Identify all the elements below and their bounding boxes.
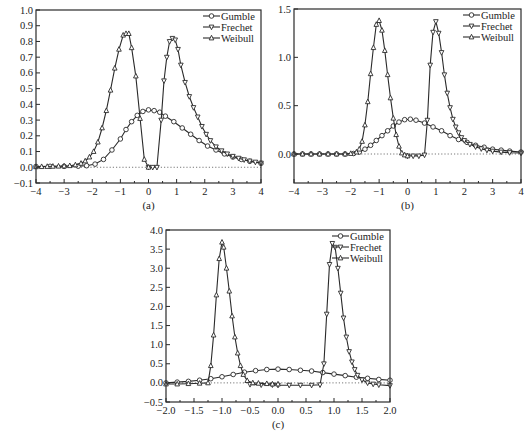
frechet-marker xyxy=(287,383,292,388)
x-tick-label: 3 xyxy=(230,186,235,197)
weibull-marker xyxy=(134,73,139,78)
x-tick-label: −4 xyxy=(288,186,300,197)
frechet-marker xyxy=(333,245,338,250)
gumble-marker xyxy=(343,373,348,378)
y-tick-label: 1.0 xyxy=(278,52,291,63)
gumble-marker xyxy=(385,129,390,134)
weibull-marker xyxy=(235,350,240,355)
frechet-marker xyxy=(155,165,160,170)
frechet-marker xyxy=(448,106,453,111)
gumble-marker xyxy=(84,163,89,168)
gumble-marker xyxy=(265,367,270,372)
gumble-marker xyxy=(309,369,314,374)
legend-label-frechet: Frechet xyxy=(350,242,382,253)
legend: GumbleFrechetWeibull xyxy=(463,10,515,43)
weibull-marker xyxy=(100,125,105,130)
legend-gumble-marker xyxy=(209,14,214,19)
weibull-marker xyxy=(108,88,113,93)
frechet-marker xyxy=(442,73,447,78)
panel-caption: (b) xyxy=(401,199,414,212)
gumble-marker xyxy=(448,133,453,138)
y-tick-label: 1.5 xyxy=(150,320,163,331)
frechet-marker xyxy=(179,63,184,68)
weibull-marker xyxy=(391,116,396,121)
legend-label-weibull: Weibull xyxy=(481,32,514,43)
frechet-marker xyxy=(191,106,196,111)
frechet-marker xyxy=(434,20,439,25)
y-tick-label: −0.5 xyxy=(144,397,163,408)
frechet-marker xyxy=(453,125,458,130)
weibull-marker xyxy=(224,266,229,271)
weibull-marker xyxy=(397,144,402,149)
legend-weibull-marker xyxy=(338,255,343,260)
gumble-marker xyxy=(152,108,157,113)
frechet-marker xyxy=(253,160,258,165)
legend-label-weibull: Weibull xyxy=(221,33,254,44)
weibull-marker xyxy=(73,162,78,167)
x-tick-label: 1 xyxy=(174,186,179,197)
weibull-marker xyxy=(221,245,226,250)
x-tick-label: 1.5 xyxy=(355,405,368,416)
weibull-marker xyxy=(62,163,67,168)
legend-label-gumble: Gumble xyxy=(481,10,515,21)
gumble-marker xyxy=(422,121,427,126)
legend-gumble-marker xyxy=(338,234,343,239)
weibull-marker xyxy=(360,139,365,144)
gumble-marker xyxy=(287,367,292,372)
weibull-marker xyxy=(380,28,385,33)
frechet-marker xyxy=(490,149,495,154)
y-axis: 0.00.51.01.5 xyxy=(278,4,298,160)
frechet-marker xyxy=(347,350,352,355)
gumble-marker xyxy=(129,119,134,124)
frechet-marker xyxy=(431,30,436,35)
gumble-marker xyxy=(110,148,115,153)
frechet-marker xyxy=(411,154,416,159)
gumble-marker xyxy=(377,377,382,382)
gumble-marker xyxy=(414,118,419,123)
frechet-marker xyxy=(159,118,164,123)
gumble-marker xyxy=(332,372,337,377)
frechet-marker xyxy=(318,383,323,388)
weibull-marker xyxy=(265,381,270,386)
y-tick-label: 0.4 xyxy=(20,99,34,110)
weibull-marker xyxy=(276,381,281,386)
frechet-marker xyxy=(422,153,427,158)
frechet-marker xyxy=(479,147,484,152)
weibull-marker xyxy=(39,164,44,169)
frechet-marker xyxy=(428,63,433,68)
weibull-marker xyxy=(220,240,225,245)
weibull-marker xyxy=(96,139,101,144)
frechet-marker xyxy=(507,151,512,156)
weibull-marker xyxy=(217,256,222,261)
frechet-marker xyxy=(360,378,365,383)
legend-weibull-marker xyxy=(469,34,474,39)
y-tick-label: 2.0 xyxy=(150,301,163,312)
frechet-marker xyxy=(327,263,332,268)
frechet-marker xyxy=(309,383,314,388)
weibull-marker xyxy=(230,313,235,318)
gumble-marker xyxy=(188,132,193,137)
x-tick-label: 4 xyxy=(258,186,264,197)
panel-caption: (a) xyxy=(142,199,155,212)
x-tick-label: 4 xyxy=(518,186,524,197)
weibull-marker xyxy=(368,71,373,76)
gumble-marker xyxy=(298,368,303,373)
x-tick-label: −1.5 xyxy=(184,405,203,416)
x-tick-label: 0 xyxy=(405,186,410,197)
gumble-marker xyxy=(141,109,146,114)
x-tick-label: 0.0 xyxy=(271,405,284,416)
gumble-marker xyxy=(93,162,98,167)
y-tick-label: 0.7 xyxy=(20,52,33,63)
chart-panel-c: −2.0−1.5−1.0−0.50.00.51.01.52.0−0.50.00.… xyxy=(144,225,397,432)
y-tick-label: 2.5 xyxy=(150,282,163,293)
weibull-marker xyxy=(211,332,216,337)
legend: GumbleFrechetWeibull xyxy=(203,11,255,44)
gumble-marker xyxy=(197,138,202,143)
weibull-marker xyxy=(214,292,219,297)
gumble-marker xyxy=(431,125,436,130)
chart-panel-a: −4−3−2−101234−0.10.00.10.20.30.40.50.60.… xyxy=(14,5,264,213)
x-tick-label: −1.0 xyxy=(212,405,231,416)
x-tick-label: 2 xyxy=(202,186,207,197)
x-tick-label: −3 xyxy=(59,186,70,197)
y-tick-label: 0.3 xyxy=(20,115,33,126)
